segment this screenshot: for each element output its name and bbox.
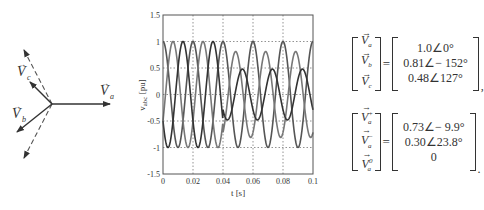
y-tick-label: 0.5 bbox=[150, 64, 160, 73]
x-tick-labels: 00.020.040.060.080.1 bbox=[161, 177, 318, 186]
equals-sign: = bbox=[381, 134, 392, 150]
vec-va-zero: →V0a bbox=[362, 154, 371, 177]
voltage-waveform-chart: -1.5-1-0.500.511.5 00.020.040.060.080.1 … bbox=[125, 0, 345, 210]
punctuation: , bbox=[479, 79, 484, 94]
lhs-vector: →Va →Vb →Vc bbox=[358, 33, 375, 94]
phasor-vc bbox=[30, 82, 52, 104]
value-va: 1.0∠0° bbox=[417, 41, 454, 56]
label-va: V → a bbox=[100, 79, 114, 101]
x-tick-label: 0.1 bbox=[308, 177, 318, 186]
svg-text:c: c bbox=[27, 73, 31, 82]
value-vb: 0.81∠− 152° bbox=[403, 56, 468, 71]
equation-phase-voltages: →Va →Vb →Vc = 1.0∠0° 0.81∠− 152° 0.48∠12… bbox=[352, 33, 484, 94]
vec-vc: →Vc bbox=[361, 74, 371, 94]
y-tick-label: 1 bbox=[156, 38, 160, 47]
y-tick-labels: -1.5-1-0.500.511.5 bbox=[147, 11, 160, 179]
y-tick-label: -1 bbox=[153, 144, 160, 153]
value-vc: 0.48∠127° bbox=[408, 71, 463, 86]
value-zero-seq: 0 bbox=[431, 150, 437, 165]
label-vc: V → c bbox=[17, 60, 31, 82]
equals-sign: = bbox=[381, 56, 392, 72]
rhs-vector: 0.73∠− 9.9° 0.30∠23.8° 0 bbox=[398, 120, 470, 165]
y-tick-label: -0.5 bbox=[147, 117, 160, 126]
phasor-diagram: V → a V → c V → b bbox=[0, 0, 125, 210]
y-tick-label: -1.5 bbox=[147, 170, 160, 179]
x-tick-label: 0.04 bbox=[216, 177, 230, 186]
svg-text:→: → bbox=[13, 102, 21, 111]
punctuation: . bbox=[476, 162, 481, 177]
x-axis-label: t [s] bbox=[231, 188, 245, 198]
y-axis-label: vabc [pu] bbox=[137, 79, 149, 110]
label-vb: V → b bbox=[12, 102, 26, 124]
svg-text:b: b bbox=[22, 115, 26, 124]
svg-text:→: → bbox=[101, 79, 109, 88]
x-tick-label: 0.02 bbox=[186, 177, 200, 186]
rhs-vector: 1.0∠0° 0.81∠− 152° 0.48∠127° bbox=[398, 41, 473, 86]
x-tick-label: 0.08 bbox=[276, 177, 290, 186]
lhs-vector: →V+a →V−a →V0a bbox=[358, 107, 375, 177]
svg-text:a: a bbox=[110, 92, 114, 101]
y-tick-label: 0 bbox=[156, 91, 160, 100]
value-negative-seq: 0.30∠23.8° bbox=[405, 135, 463, 150]
phasor-dashed-lower bbox=[24, 104, 52, 158]
x-tick-label: 0 bbox=[161, 177, 165, 186]
value-positive-seq: 0.73∠− 9.9° bbox=[403, 120, 465, 135]
svg-text:→: → bbox=[18, 60, 26, 69]
equation-sequence-components: →V+a →V−a →V0a = 0.73∠− 9.9° 0.30∠23.8° … bbox=[352, 107, 481, 177]
x-tick-label: 0.06 bbox=[246, 177, 260, 186]
y-tick-label: 1.5 bbox=[150, 11, 160, 20]
